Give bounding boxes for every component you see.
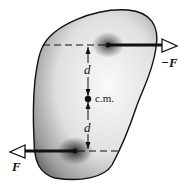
upper-application-point [106,43,111,48]
lower-force-label: F [12,160,21,173]
lower-force-arrowhead [10,145,25,158]
center-of-mass-label: c.m. [95,93,114,104]
diagram-graphic [0,0,186,192]
upper-force-label: −F [161,56,178,69]
lower-application-point [73,149,78,154]
upper-distance-label: d [84,63,91,76]
force-couple-diagram: −F F d d c.m. [0,0,186,192]
upper-force-arrowhead [162,39,177,52]
center-of-mass-dot [85,96,91,102]
lower-distance-label: d [84,121,91,134]
